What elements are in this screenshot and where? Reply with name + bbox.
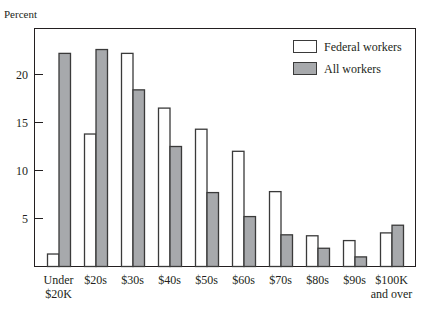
bars	[48, 50, 404, 267]
bar-federal-workers	[233, 151, 245, 266]
bar-federal-workers	[270, 192, 282, 267]
x-category-label: $90s	[343, 273, 366, 287]
y-tick-label: 10	[16, 164, 28, 178]
x-category-label: $70s	[269, 273, 292, 287]
y-tick-label: 15	[16, 116, 28, 130]
x-category-label: $50s	[195, 273, 218, 287]
bar-all-workers	[392, 225, 404, 266]
legend-label-federal: Federal workers	[324, 40, 402, 54]
x-axis: Under$20K$20s$30s$40s$50s$60s$70s$80s$90…	[44, 273, 413, 301]
bar-all-workers	[170, 147, 182, 267]
bar-all-workers	[207, 193, 219, 267]
bar-federal-workers	[196, 129, 208, 266]
y-tick-label: 20	[16, 68, 28, 82]
x-category-label: $60s	[232, 273, 255, 287]
bar-chart: 5101520 Under$20K$20s$30s$40s$50s$60s$70…	[0, 0, 428, 310]
x-category-label: and over	[371, 287, 413, 301]
legend-label-all: All workers	[324, 62, 381, 76]
bar-federal-workers	[381, 233, 393, 267]
x-category-label: $100K	[375, 273, 408, 287]
legend-swatch-federal	[294, 41, 317, 53]
bar-all-workers	[281, 235, 293, 267]
x-category-label: $30s	[121, 273, 144, 287]
bar-federal-workers	[48, 254, 60, 266]
bar-all-workers	[133, 90, 145, 267]
bar-federal-workers	[344, 241, 356, 267]
bar-all-workers	[59, 53, 71, 266]
x-category-label: $20s	[84, 273, 107, 287]
bar-all-workers	[355, 257, 367, 267]
bar-all-workers	[244, 217, 256, 267]
bar-federal-workers	[159, 108, 171, 266]
x-category-label: Under	[44, 273, 74, 287]
x-category-label: $80s	[306, 273, 329, 287]
x-category-label: $40s	[158, 273, 181, 287]
bar-federal-workers	[85, 134, 97, 266]
y-tick-label: 5	[22, 212, 28, 226]
y-axis: 5101520	[16, 68, 43, 226]
bar-federal-workers	[122, 53, 134, 266]
x-category-label: $20K	[45, 287, 72, 301]
bar-all-workers	[318, 248, 330, 266]
bar-federal-workers	[307, 236, 319, 267]
bar-all-workers	[96, 50, 108, 267]
legend: Federal workersAll workers	[294, 40, 402, 76]
legend-swatch-all	[294, 63, 317, 75]
